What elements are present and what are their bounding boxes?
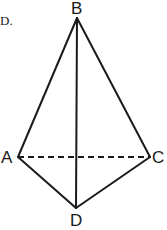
- edge-CD: [76, 157, 150, 208]
- vertex-label-C: C: [152, 148, 164, 167]
- tetrahedron-figure: B A C D: [0, 0, 167, 230]
- diagram-canvas: D. B A C D: [0, 0, 167, 230]
- vertex-label-B: B: [71, 0, 82, 18]
- edge-BD: [76, 18, 77, 208]
- edge-BC: [77, 18, 150, 157]
- vertex-label-D: D: [70, 211, 82, 230]
- vertex-label-A: A: [1, 148, 13, 167]
- edge-BA: [18, 18, 77, 157]
- edge-AD: [18, 157, 76, 208]
